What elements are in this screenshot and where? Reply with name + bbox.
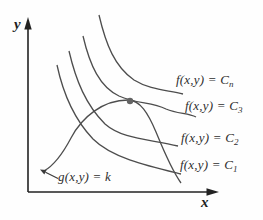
- label-subscript: n: [229, 79, 234, 89]
- annotation-arrowhead-icon: [40, 170, 47, 175]
- y-axis-label: y: [14, 17, 21, 32]
- label-subscript: 1: [233, 164, 238, 174]
- level-curves-diagram: y x f(x,y) = Cn f(x,y) = C3 f(x,y) = C2 …: [0, 0, 263, 220]
- tangent-point-dot: [127, 98, 133, 104]
- constraint-annotation-arrow: [40, 170, 58, 179]
- x-axis: [28, 188, 219, 195]
- y-axis-arrow-icon: [24, 17, 31, 30]
- y-axis: [24, 17, 31, 192]
- constraint-curve-label: g(x,y) = k: [58, 170, 111, 184]
- label-text: g(x,y) = k: [58, 169, 111, 184]
- level-curve-label-c2: f(x,y) = C2: [181, 131, 239, 149]
- label-text: f(x,y) = C: [181, 130, 234, 145]
- label-text: f(x,y) = C: [176, 72, 229, 87]
- label-text: f(x,y) = C: [185, 98, 238, 113]
- level-curve-cn: [99, 15, 183, 94]
- level-curve-c2: [69, 51, 178, 146]
- level-curve-label-c1: f(x,y) = C1: [180, 158, 238, 176]
- label-text: f(x,y) = C: [180, 157, 233, 172]
- label-subscript: 2: [234, 137, 239, 147]
- level-curve-c1: [57, 65, 181, 174]
- label-subscript: 3: [238, 105, 243, 115]
- x-axis-label: x: [201, 195, 209, 210]
- level-curve-label-cn: f(x,y) = Cn: [176, 73, 234, 91]
- level-curve-label-c3: f(x,y) = C3: [185, 99, 243, 117]
